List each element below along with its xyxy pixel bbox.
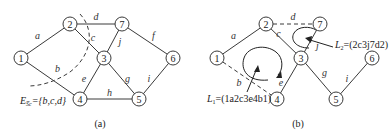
edge-label-g: g — [125, 73, 130, 84]
edge-label-a: a — [231, 30, 236, 41]
node-label: 6 — [171, 53, 176, 64]
node-label: 4 — [275, 94, 280, 105]
node-3: 3 — [294, 51, 308, 65]
node-3: 3 — [97, 51, 111, 65]
edge-label-a: a — [35, 30, 40, 41]
node-label: 2 — [68, 19, 73, 30]
node-2: 2 — [63, 17, 77, 31]
edge-label-d: d — [94, 11, 100, 22]
loop-l1-arrowhead — [276, 71, 282, 78]
caption-a: (a) — [94, 118, 105, 130]
edge-label-i: i — [148, 73, 151, 84]
panel-b: abcdegij 1234567 L2=(2c3j7d2) L1=(1a2c3e… — [206, 11, 388, 131]
loop-l1-pointer-head — [254, 65, 260, 72]
edge-label-b: b — [237, 77, 242, 88]
loop-l2-pointer — [310, 40, 333, 47]
edge-label-g: g — [322, 67, 327, 78]
loop-l2-label: L2=(2c3j7d2) — [334, 39, 388, 51]
edge-label-e: e — [279, 77, 284, 88]
edge-label-d: d — [291, 11, 297, 22]
edge-i — [336, 58, 372, 99]
node-4: 4 — [270, 92, 284, 106]
node-label: 6 — [370, 53, 375, 64]
loop-l1-circulation — [243, 47, 282, 80]
edge-label-f: f — [152, 30, 156, 41]
edge-a — [21, 24, 70, 58]
node-label: 3 — [102, 53, 107, 64]
node-label: 5 — [137, 94, 142, 105]
edge-a — [217, 24, 266, 58]
node-label: 2 — [264, 19, 269, 30]
node-label: 1 — [215, 53, 220, 64]
panel-a: abcdefghij 1234567 ES̅c={b,c,d} (a) — [14, 11, 180, 131]
caption-b: (b) — [292, 118, 304, 130]
edge-f — [122, 24, 173, 58]
node-6: 6 — [365, 51, 379, 65]
node-label: 7 — [318, 19, 323, 30]
edge-b — [21, 58, 80, 99]
node-5: 5 — [132, 92, 146, 106]
node-6: 6 — [166, 51, 180, 65]
node-1: 1 — [14, 51, 28, 65]
loop-l2-pointer-head — [305, 36, 312, 43]
edge-label-e: e — [82, 73, 87, 84]
loop-l1-label: L1=(1a2c3e4b1) — [206, 93, 271, 105]
edge-label-c: c — [91, 32, 96, 43]
node-label: 1 — [19, 53, 24, 64]
edge-label-h: h — [107, 87, 112, 98]
node-label: 5 — [334, 94, 339, 105]
cutset-label: ES̅c={b,c,d} — [19, 95, 66, 107]
edge-i — [139, 58, 173, 99]
edge-label-b: b — [55, 63, 60, 74]
node-2: 2 — [259, 17, 273, 31]
node-4: 4 — [73, 92, 87, 106]
node-7: 7 — [313, 17, 327, 31]
node-5: 5 — [329, 92, 343, 106]
node-1: 1 — [210, 51, 224, 65]
node-label: 7 — [120, 19, 125, 30]
graph-figure: abcdefghij 1234567 ES̅c={b,c,d} (a) abcd… — [0, 0, 391, 138]
edge-label-c: c — [276, 28, 281, 39]
node-label: 4 — [78, 94, 83, 105]
edge-g — [301, 58, 336, 99]
cutset-curve — [28, 14, 89, 86]
node-7: 7 — [115, 17, 129, 31]
edge-label-j: j — [117, 36, 122, 47]
node-label: 3 — [299, 53, 304, 64]
edge-label-i: i — [346, 73, 349, 84]
